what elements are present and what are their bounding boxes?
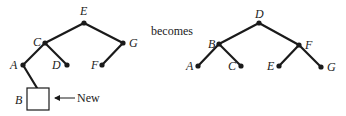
node-D <box>64 62 69 67</box>
label-A: A <box>185 59 194 73</box>
label-G: G <box>327 60 336 74</box>
edge-D-F <box>259 23 299 45</box>
node-B <box>216 41 221 46</box>
node-G <box>318 64 323 69</box>
new-node-box-B <box>27 88 49 110</box>
tree-rotation-diagram: E C G A D F B New becomes D B F A C E G <box>0 0 346 116</box>
before-tree: E C G A D F B New <box>9 4 138 110</box>
new-annotation: New <box>77 91 100 105</box>
node-A <box>195 63 200 68</box>
label-A: A <box>9 58 18 72</box>
label-C: C <box>228 59 237 73</box>
node-D <box>256 20 261 25</box>
node-C <box>42 40 47 45</box>
label-E: E <box>79 4 88 18</box>
node-F <box>296 42 301 47</box>
label-D: D <box>51 58 61 72</box>
edge-G-F <box>102 43 123 65</box>
label-B: B <box>15 93 23 107</box>
label-E: E <box>266 59 275 73</box>
node-G <box>120 40 125 45</box>
label-B: B <box>208 37 216 51</box>
edge-A-B <box>23 65 37 88</box>
after-tree: D B F A C E G <box>185 7 336 74</box>
edge-D-B <box>219 23 259 44</box>
label-G: G <box>129 36 138 50</box>
edge-F-E <box>279 45 299 66</box>
label-D: D <box>254 7 264 21</box>
label-F: F <box>90 58 99 72</box>
node-C <box>238 63 243 68</box>
node-F <box>99 62 104 67</box>
edge-E-G <box>84 23 123 43</box>
edge-E-C <box>45 23 84 43</box>
label-F: F <box>304 38 313 52</box>
node-E <box>276 63 281 68</box>
becomes-text: becomes <box>151 24 193 38</box>
node-E <box>81 20 86 25</box>
label-C: C <box>33 35 42 49</box>
node-A <box>20 62 25 67</box>
